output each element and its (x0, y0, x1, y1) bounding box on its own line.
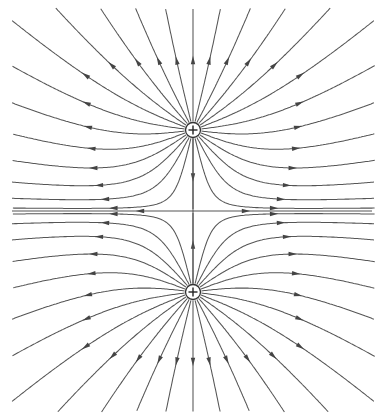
arrowhead-icon (87, 271, 96, 275)
field-line (13, 293, 185, 356)
field-line (12, 136, 187, 185)
field-line (58, 297, 186, 412)
arrowhead-icon (89, 166, 97, 170)
arrowhead-icon (191, 358, 195, 366)
field-line (201, 295, 374, 401)
arrowhead-icon (82, 102, 91, 107)
field-line (166, 300, 191, 411)
field-line (12, 295, 185, 401)
field-line (201, 293, 374, 356)
arrowhead-icon (82, 315, 91, 320)
arrowhead-icon (135, 58, 142, 66)
arrowhead-icon (206, 56, 210, 65)
field-line (201, 133, 374, 149)
field-line (200, 297, 328, 412)
field-line (201, 288, 374, 319)
field-line (199, 136, 374, 185)
arrowhead-icon (223, 355, 229, 364)
arrowhead-icon (136, 209, 144, 213)
field-line (199, 236, 374, 285)
midline-field-line (12, 138, 372, 285)
arrowhead-icon (270, 212, 278, 216)
arrowhead-icon (191, 56, 195, 64)
arrowhead-icon (175, 56, 179, 65)
arrowhead-icon (242, 209, 250, 213)
arrowhead-icon (84, 292, 93, 296)
field-line (13, 273, 185, 289)
arrowhead-icon (109, 212, 117, 216)
field-lines-canvas (0, 0, 386, 419)
arrowhead-icon (89, 252, 97, 256)
arrowhead-icon (295, 102, 304, 107)
field-line (166, 9, 191, 122)
field-line (13, 133, 185, 149)
arrowhead-icon (109, 206, 117, 210)
arrowhead-icon (206, 357, 210, 366)
positive-charge-top (186, 123, 201, 138)
field-line (197, 300, 249, 411)
arrowhead-icon (157, 57, 163, 66)
field-line (12, 103, 185, 134)
arrowhead-icon (101, 221, 109, 225)
field-line (197, 8, 250, 122)
arrowhead-icon (101, 197, 109, 201)
field-line (13, 66, 185, 129)
arrowhead-icon (289, 166, 297, 170)
field-line (201, 66, 374, 129)
arrowhead-icon (289, 252, 297, 256)
arrowhead-icon (295, 315, 304, 320)
field-line (12, 138, 189, 200)
arrowhead-icon (296, 343, 304, 350)
arrowhead-icon (224, 57, 230, 66)
arrowhead-icon (244, 58, 251, 66)
arrowhead-icon (277, 197, 285, 201)
arrowhead-icon (277, 221, 285, 225)
field-line (12, 222, 189, 284)
arrowhead-icon (157, 355, 163, 364)
arrowhead-icon (175, 357, 179, 366)
field-line-diagram: Electric field lines of two equal positi… (0, 0, 386, 419)
field-line (197, 138, 374, 200)
field-line (200, 8, 330, 125)
field-line (12, 21, 185, 127)
positive-charge-bottom (186, 285, 201, 300)
field-line (136, 8, 189, 122)
field-line (195, 300, 220, 411)
field-line (201, 273, 374, 289)
arrowhead-icon (292, 147, 301, 151)
field-line (201, 21, 374, 127)
field-line (137, 300, 189, 411)
field-line (201, 103, 374, 134)
arrowhead-icon (82, 343, 90, 350)
arrowhead-icon (82, 73, 90, 80)
arrowhead-icon (84, 126, 93, 130)
field-line (12, 288, 185, 319)
arrowhead-icon (136, 354, 143, 362)
arrowhead-icon (243, 354, 250, 362)
field-line (12, 236, 187, 285)
arrowhead-icon (296, 73, 304, 80)
arrowhead-icon (294, 292, 303, 296)
arrowhead-icon (294, 126, 303, 130)
field-line (56, 8, 186, 125)
arrowhead-icon (270, 206, 278, 210)
field-line (195, 9, 220, 122)
arrowhead-icon (87, 147, 96, 151)
field-line (197, 222, 374, 284)
arrowhead-icon (292, 271, 301, 275)
